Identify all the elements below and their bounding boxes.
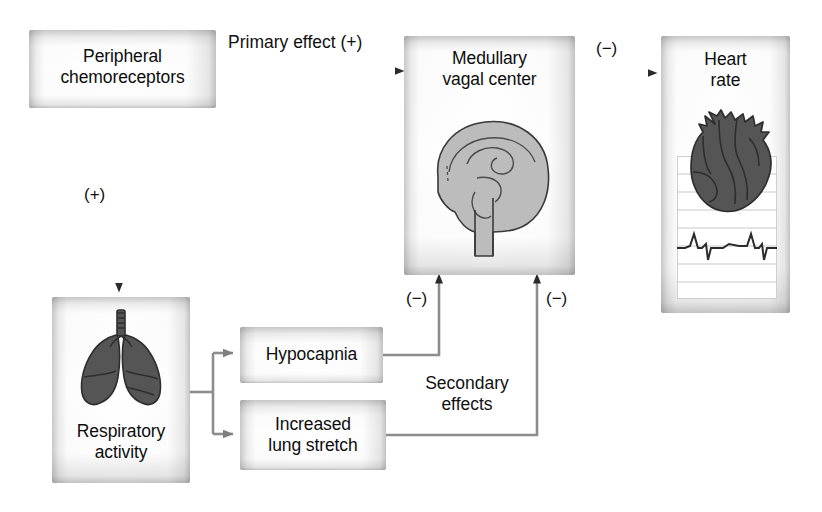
node-label-hypocapnia: Hypocapnia — [240, 344, 383, 365]
node-label-peripheral-chemoreceptors: Peripheral chemoreceptors — [29, 46, 216, 88]
edge-hypocapnia-to-medulla — [383, 274, 439, 355]
node-medullary-vagal-center[interactable]: Medullary vagal center — [404, 36, 575, 275]
physiology-flow-diagram: Peripheral chemoreceptors Medullary vaga… — [0, 0, 822, 512]
edge-label-primary-effect: Primary effect (+) — [228, 32, 418, 53]
node-heart-rate[interactable]: Heart rate — [661, 36, 790, 313]
node-hypocapnia[interactable]: Hypocapnia — [240, 327, 383, 383]
edge-respiratory-branch — [190, 353, 233, 434]
edge-label-lung-stretch-minus: (−) — [546, 290, 567, 308]
heart-icon — [679, 108, 779, 226]
node-respiratory-activity[interactable]: Respiratory activity — [52, 297, 190, 483]
node-increased-lung-stretch[interactable]: Increased lung stretch — [240, 400, 386, 470]
brain-icon — [415, 106, 565, 266]
lungs-icon — [68, 309, 174, 413]
node-label-medullary-vagal-center: Medullary vagal center — [404, 48, 575, 90]
edge-label-secondary-effects: Secondary effects — [407, 373, 527, 415]
node-peripheral-chemoreceptors[interactable]: Peripheral chemoreceptors — [29, 30, 216, 108]
edge-label-hypocapnia-minus: (−) — [406, 290, 427, 308]
node-label-increased-lung-stretch: Increased lung stretch — [240, 414, 386, 456]
node-label-respiratory-activity: Respiratory activity — [52, 421, 190, 463]
edge-label-chemo-to-respiratory-plus: (+) — [84, 186, 105, 204]
edge-label-medulla-to-heart-minus: (−) — [596, 40, 617, 58]
node-label-heart-rate: Heart rate — [661, 49, 790, 91]
